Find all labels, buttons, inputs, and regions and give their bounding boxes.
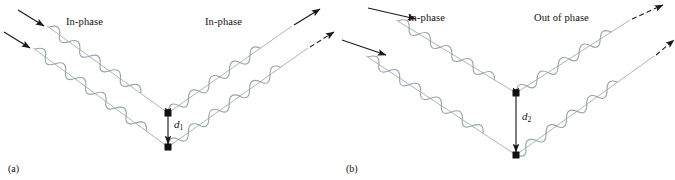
incident-arrow-lower xyxy=(4,32,30,48)
spacing-subscript-d2: 2 xyxy=(528,115,532,124)
ray-axis-upper xyxy=(47,26,292,113)
wave-incoming-upper xyxy=(46,23,144,97)
scattered-arrow-upper xyxy=(294,9,320,25)
panel-caption-a: (a) xyxy=(8,163,19,174)
panel-b: In-phase Out of phase d2 (b) xyxy=(338,0,675,180)
atom-lower-plane xyxy=(513,152,520,159)
spacing-label-d1: d1 xyxy=(174,118,183,130)
scattered-arrow-lower xyxy=(656,40,674,55)
atom-upper-plane xyxy=(165,110,172,117)
bragg-diffraction-figure: In-phase In-phase d1 (a) xyxy=(0,0,675,180)
panel-caption-b: (b) xyxy=(346,163,358,174)
outgoing-phase-label-b: Out of phase xyxy=(534,12,589,23)
scattered-arrow-upper xyxy=(632,5,663,19)
incident-arrow-upper xyxy=(18,10,44,26)
panel-a-graphic xyxy=(0,0,337,180)
incoming-phase-label-a: In-phase xyxy=(66,16,103,27)
spacing-subscript-d1: 1 xyxy=(180,123,184,132)
atom-lower-plane xyxy=(165,144,172,151)
spacing-symbol-d1: d xyxy=(174,118,180,130)
incident-arrow-lower xyxy=(342,40,386,55)
scattered-arrow-lower xyxy=(310,32,334,47)
panel-a: In-phase In-phase d1 (a) xyxy=(0,0,337,180)
ray-axis-lower xyxy=(366,56,654,155)
atom-upper-plane xyxy=(513,90,520,97)
panel-b-graphic xyxy=(338,0,675,180)
incoming-phase-label-b: In-phase xyxy=(408,12,445,23)
spacing-symbol-d2: d xyxy=(522,110,528,122)
spacing-label-d2: d2 xyxy=(522,110,531,122)
ray-axis-upper xyxy=(396,20,630,93)
outgoing-phase-label-a: In-phase xyxy=(205,16,242,27)
ray-axis-lower xyxy=(33,48,308,147)
wave-incoming-lower xyxy=(32,45,149,135)
